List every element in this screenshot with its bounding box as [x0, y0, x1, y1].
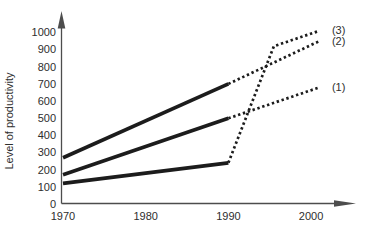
- y-tick-label: 500: [38, 112, 56, 124]
- series-1-dotted-line: [228, 87, 319, 118]
- x-axis-arrow-icon: [334, 200, 356, 206]
- y-tick-label: 400: [38, 129, 56, 141]
- y-tick-label: 1000: [32, 26, 56, 38]
- chart-canvas: Level of productivity 010020030040050060…: [0, 0, 369, 235]
- y-tick-label: 600: [38, 95, 56, 107]
- y-tick-label: 300: [38, 146, 56, 158]
- y-tick-label: 100: [38, 181, 56, 193]
- series-1-end-label: (1): [332, 81, 345, 93]
- data-series: [63, 31, 319, 184]
- y-tick-label: 0: [50, 198, 56, 210]
- x-tick-label: 2000: [299, 210, 323, 222]
- series-3-dotted-line: [228, 31, 319, 163]
- series-end-labels: (2)(1)(3): [332, 24, 345, 93]
- x-tick-label: 1970: [51, 210, 75, 222]
- series-3-end-label: (3): [332, 24, 345, 36]
- y-tick-label: 200: [38, 164, 56, 176]
- x-tick-label: 1980: [133, 210, 157, 222]
- y-tick-label: 800: [38, 61, 56, 73]
- y-axis-arrow-icon: [58, 11, 66, 29]
- y-axis-title: Level of productivity: [3, 72, 15, 170]
- y-tick-label: 700: [38, 78, 56, 90]
- tick-labels: 0100200300400500600700800900100019701980…: [32, 26, 324, 221]
- y-tick-label: 900: [38, 43, 56, 55]
- series-2-end-label: (2): [332, 35, 345, 47]
- productivity-chart: Level of productivity 010020030040050060…: [0, 0, 369, 235]
- x-tick-label: 1990: [216, 210, 240, 222]
